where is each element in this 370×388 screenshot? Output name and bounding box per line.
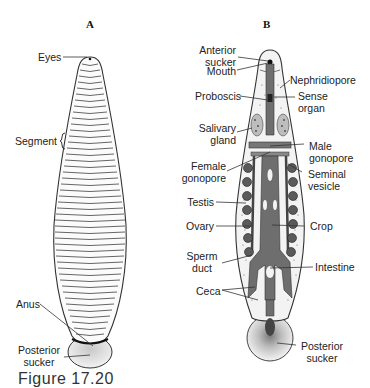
label-ovary: Ovary	[180, 220, 214, 232]
label-ceca: Ceca	[196, 285, 221, 297]
external-leech-body	[54, 57, 127, 368]
label-eyes: Eyes	[38, 51, 61, 63]
label-posterior-sucker-b-line2: sucker	[298, 352, 346, 364]
label-seminal-vesicle-line2: vesicle	[308, 180, 346, 192]
label-sperm-duct-line1: Sperm	[182, 250, 222, 262]
label-crop: Crop	[310, 220, 333, 232]
label-salivary-gland-line2: gland	[190, 134, 236, 146]
panel-b-letter: B	[263, 18, 270, 30]
label-testis: Testis	[180, 196, 214, 208]
label-salivary-gland-line1: Salivary	[190, 122, 236, 134]
label-posterior-sucker-a-line2: sucker	[16, 356, 62, 368]
label-sperm-duct-line2: duct	[182, 262, 222, 274]
label-anus: Anus	[16, 298, 40, 310]
label-posterior-sucker-b: Posterior sucker	[298, 340, 346, 364]
label-intestine: Intestine	[315, 261, 355, 273]
label-female-gonopore: Female gonopore	[176, 160, 226, 184]
label-posterior-sucker-a-line1: Posterior	[16, 344, 62, 356]
label-posterior-sucker-a: Posterior sucker	[16, 344, 62, 368]
label-seminal-vesicle-line1: Seminal	[308, 168, 346, 180]
label-sense-organ-line2: organ	[298, 102, 328, 114]
label-seminal-vesicle: Seminal vesicle	[308, 168, 346, 192]
label-male-gonopore-line1: Male	[309, 140, 353, 152]
label-sperm-duct: Sperm duct	[182, 250, 222, 274]
label-sense-organ-line1: Sense	[298, 90, 328, 102]
label-mouth: Mouth	[190, 65, 236, 77]
label-male-gonopore-line2: gonopore	[309, 152, 353, 164]
label-posterior-sucker-b-line1: Posterior	[298, 340, 346, 352]
label-male-gonopore: Male gonopore	[309, 140, 353, 164]
label-female-gonopore-line2: gonopore	[176, 172, 226, 184]
label-segment: Segment	[15, 135, 57, 147]
figure-caption: Figure 17.20	[18, 370, 114, 388]
label-salivary-gland: Salivary gland	[190, 122, 236, 146]
label-sense-organ: Sense organ	[298, 90, 328, 114]
label-anterior-sucker-line1: Anterior	[190, 44, 236, 56]
label-nephridiopore: Nephridiopore	[290, 74, 356, 86]
label-female-gonopore-line1: Female	[176, 160, 226, 172]
panel-a-letter: A	[86, 18, 94, 30]
label-proboscis: Proboscis	[195, 90, 241, 102]
